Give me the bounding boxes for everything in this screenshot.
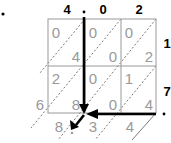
multiplicand-digit-0: 4 <box>63 2 71 17</box>
cell-1-2-tens: 1 <box>125 70 133 87</box>
cell-0-0-tens: 0 <box>52 24 60 41</box>
cell-0-0-ones: 4 <box>72 48 80 65</box>
result-bottom-digit-0: 8 <box>55 118 63 135</box>
leading-dot <box>1 12 4 15</box>
multiplicand-decimal-dot <box>83 11 86 14</box>
multiplier-decimal-dot <box>163 113 166 116</box>
lattice-diagram: 4 0 2 1 7 0 4 0 0 0 2 2 8 0 0 1 4 6 8 3 … <box>0 0 171 143</box>
multiplicand-digit-1: 0 <box>99 2 106 17</box>
multiplier-digit-1: 7 <box>163 84 170 99</box>
multiplicand-digit-2: 2 <box>135 2 142 17</box>
multiplier-digit-0: 1 <box>163 36 170 51</box>
cell-1-0-tens: 2 <box>52 70 60 87</box>
result-bottom-digit-1: 3 <box>89 118 97 135</box>
cell-0-1-ones: 0 <box>109 48 117 65</box>
cell-1-0-ones: 8 <box>72 96 80 113</box>
cell-0-2-tens: 0 <box>125 24 133 41</box>
cell-1-1-ones: 0 <box>109 96 117 113</box>
cell-0-2-ones: 2 <box>145 48 153 65</box>
cell-0-1-tens: 0 <box>89 24 97 41</box>
result-bottom-digit-2: 4 <box>126 118 134 135</box>
result-left-digit: 6 <box>36 96 44 113</box>
cell-1-2-ones: 4 <box>145 96 153 113</box>
lattice-grid <box>48 19 156 113</box>
result-decimal-dot <box>71 132 73 134</box>
cell-1-1-tens: 0 <box>89 70 97 87</box>
